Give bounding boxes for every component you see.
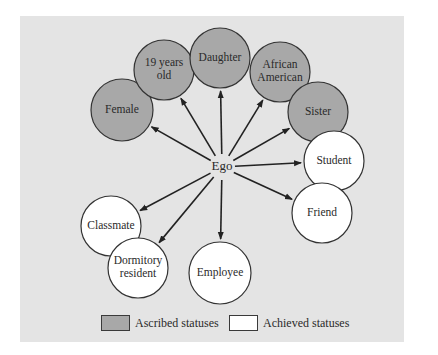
status-node-friend: Friend	[292, 183, 352, 243]
legend-achieved-label: Achieved statuses	[263, 316, 349, 331]
ascribed-swatch	[101, 315, 130, 331]
legend-achieved: Achieved statuses	[229, 315, 349, 331]
status-node-employee: Employee	[189, 242, 251, 304]
status-label: old	[157, 69, 172, 81]
status-label: resident	[120, 267, 157, 279]
achieved-swatch	[229, 315, 258, 331]
status-label: African	[262, 58, 297, 70]
status-node-student: Student	[304, 131, 364, 191]
status-node-dormitory-resident: Dormitoryresident	[108, 238, 168, 298]
legend-ascribed: Ascribed statuses	[101, 315, 219, 331]
status-label: Classmate	[87, 219, 134, 231]
status-label: Sister	[305, 105, 331, 117]
status-label: Dormitory	[114, 254, 163, 267]
status-label: Student	[316, 154, 352, 166]
status-label: 19 years	[145, 56, 184, 69]
status-label: Female	[105, 103, 139, 115]
status-node-19-years-old: 19 yearsold	[134, 40, 194, 100]
status-label: Employee	[197, 266, 244, 279]
arrow-to-employee	[221, 180, 222, 239]
arrow-to-student	[235, 163, 301, 167]
arrow-to-african-american	[229, 100, 263, 156]
arrow-to-classmate	[140, 173, 210, 210]
status-label: Daughter	[199, 51, 242, 64]
arrow-to-friend	[234, 172, 292, 199]
status-node-daughter: Daughter	[190, 28, 250, 88]
status-set-diagram: Female19 yearsoldDaughterAfricanAmerican…	[0, 0, 438, 355]
arrow-to-daughter	[221, 91, 222, 154]
arrow-to-dormitory-resident	[159, 177, 214, 243]
status-label: American	[257, 71, 303, 83]
legend-ascribed-label: Ascribed statuses	[135, 316, 219, 331]
ego-label: Ego	[212, 158, 233, 173]
status-label: Friend	[307, 206, 337, 218]
